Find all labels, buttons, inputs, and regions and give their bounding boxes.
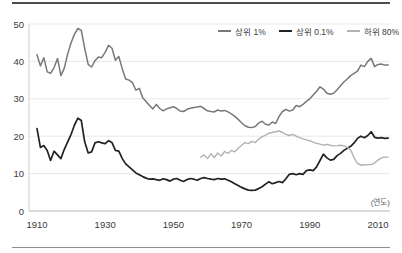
y-tick-label-30: 30 — [0, 93, 24, 104]
series-line-1 — [37, 118, 388, 190]
figure-bottom-rule — [12, 247, 390, 248]
legend-label-top1: 상위 1% — [235, 25, 266, 37]
x-tick-label-1970: 1970 — [225, 219, 259, 230]
x-tick-label-1990: 1990 — [293, 219, 327, 230]
legend-item-bottom80: 하위 80% — [347, 25, 399, 37]
legend-item-top01: 상위 0.1% — [279, 25, 334, 37]
legend-label-bottom80: 하위 80% — [364, 25, 399, 37]
income-share-line-chart-figure: 상위 1% 상위 0.1% 하위 80% 01020304050 1910193… — [0, 0, 402, 253]
x-tick-label-1910: 1910 — [20, 219, 54, 230]
y-tick-label-0: 0 — [0, 206, 24, 217]
legend-item-top1: 상위 1% — [218, 25, 266, 37]
x-tick-label-1930: 1930 — [88, 219, 122, 230]
y-tick-label-40: 40 — [0, 56, 24, 67]
y-tick-label-20: 20 — [0, 131, 24, 142]
series-line-0 — [37, 29, 388, 128]
chart-legend: 상위 1% 상위 0.1% 하위 80% — [218, 25, 399, 37]
legend-line-swatch-top1 — [218, 30, 231, 32]
line-chart-plot-area — [0, 0, 402, 253]
legend-line-swatch-bottom80 — [347, 30, 360, 32]
x-tick-label-1950: 1950 — [156, 219, 190, 230]
legend-line-swatch-top01 — [279, 30, 292, 32]
y-tick-label-50: 50 — [0, 19, 24, 30]
x-tick-label-2010: 2010 — [361, 219, 395, 230]
y-tick-label-10: 10 — [0, 168, 24, 179]
x-axis-unit-label: (연도) — [371, 196, 390, 207]
legend-label-top01: 상위 0.1% — [296, 25, 334, 37]
